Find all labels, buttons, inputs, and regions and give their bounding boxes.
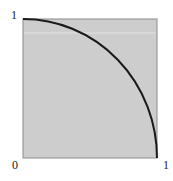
quarter-circle-figure: 1 0 1 — [0, 0, 173, 181]
origin-label-0: 0 — [12, 158, 18, 172]
x-axis-label-1: 1 — [163, 158, 169, 172]
y-axis-label-1: 1 — [11, 8, 17, 22]
unit-square — [23, 19, 157, 158]
